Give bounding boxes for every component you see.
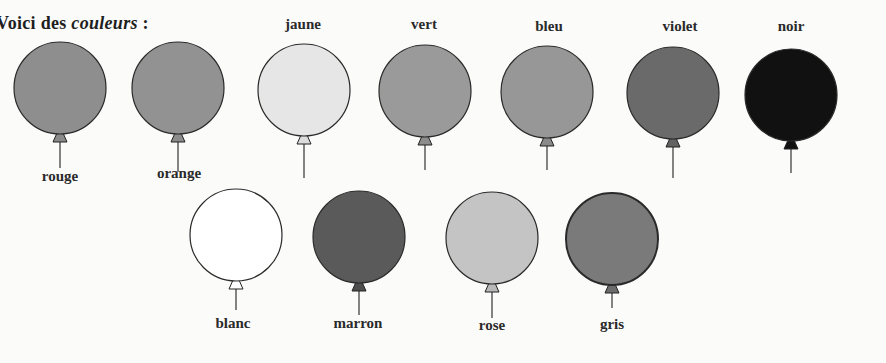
balloon-circle-icon (446, 192, 538, 284)
balloon-circle-icon (313, 191, 405, 283)
balloon-label-bleu: bleu (535, 18, 563, 35)
balloon-marron (313, 191, 405, 315)
balloon-circle-icon (566, 193, 658, 285)
balloon-vert (379, 45, 471, 170)
balloon-label-violet: violet (663, 18, 698, 35)
balloon-jaune (258, 44, 350, 178)
balloon-label-orange: orange (157, 165, 201, 182)
balloon-label-jaune: jaune (285, 16, 321, 33)
balloon-circle-icon (132, 42, 224, 134)
balloon-circle-icon (501, 46, 593, 138)
balloon-circle-icon (627, 47, 719, 139)
balloon-gris (566, 193, 658, 308)
balloon-noir (745, 49, 837, 173)
balloon-label-rose: rose (479, 317, 505, 334)
balloon-rose (446, 192, 538, 318)
balloon-illustration (0, 0, 886, 363)
balloon-circle-icon (379, 45, 471, 137)
balloon-label-rouge: rouge (42, 168, 78, 185)
balloon-orange (132, 42, 224, 172)
balloon-circle-icon (190, 189, 282, 281)
balloon-blanc (190, 189, 282, 310)
balloon-circle-icon (14, 42, 106, 134)
balloon-label-noir: noir (778, 18, 805, 35)
balloon-label-vert: vert (411, 16, 437, 33)
balloon-label-marron: marron (334, 315, 383, 332)
balloon-circle-icon (258, 44, 350, 136)
balloon-label-gris: gris (600, 316, 624, 333)
balloon-label-blanc: blanc (215, 315, 250, 332)
balloon-rouge (14, 42, 106, 168)
balloon-circle-icon (745, 49, 837, 141)
balloon-bleu (501, 46, 593, 170)
balloon-violet (627, 47, 719, 178)
